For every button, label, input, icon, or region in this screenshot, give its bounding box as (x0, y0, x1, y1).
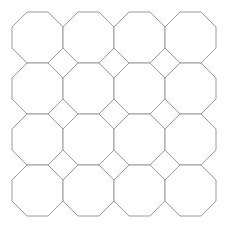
octagon-r4-c2 (63, 165, 114, 216)
octagon-r2-c1 (12, 63, 63, 114)
octagon-r2-c3 (114, 63, 165, 114)
octagon-r3-c1 (12, 114, 63, 165)
octagon-r1-c4 (165, 12, 216, 63)
octagon-r3-c4 (165, 114, 216, 165)
octagon-r1-c1 (12, 12, 63, 63)
drawing-canvas (0, 0, 227, 231)
octagon-r2-c2 (63, 63, 114, 114)
octagon-r4-c1 (12, 165, 63, 216)
octagon-r1-c3 (114, 12, 165, 63)
octagon-r4-c3 (114, 165, 165, 216)
octagon-tiling-figure (0, 0, 227, 231)
octagon-r4-c4 (165, 165, 216, 216)
octagon-r1-c2 (63, 12, 114, 63)
octagon-group (12, 12, 216, 216)
octagon-r3-c3 (114, 114, 165, 165)
octagon-r2-c4 (165, 63, 216, 114)
octagon-r3-c2 (63, 114, 114, 165)
